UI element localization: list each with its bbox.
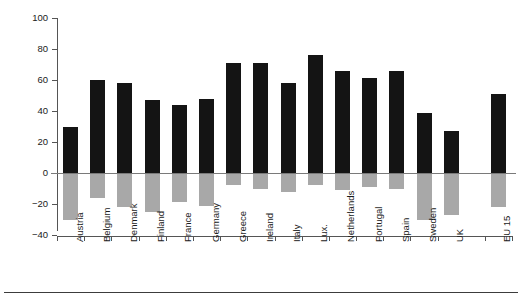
x-tick-label: UK	[455, 229, 465, 242]
y-tick-label: 40	[20, 106, 48, 116]
x-tick-label: Austria	[75, 212, 85, 242]
x-tick-label: Spain	[401, 218, 411, 242]
x-tick-mark	[57, 236, 58, 241]
x-tick-mark	[512, 236, 513, 241]
x-tick-label: Lux.	[319, 224, 329, 242]
bar-negative	[281, 173, 296, 192]
bar-positive	[253, 63, 268, 173]
bar-positive	[308, 55, 323, 173]
y-tick-label: −20	[20, 199, 48, 209]
x-tick-label: Italy	[292, 225, 302, 242]
y-tick-label: −40	[20, 230, 48, 240]
x-tick-label: Netherlands	[346, 191, 356, 242]
x-tick-label: Greece	[238, 211, 248, 242]
x-tick-label: Sweden	[428, 208, 438, 242]
footer-rule	[4, 292, 518, 293]
x-tick-mark	[193, 236, 194, 241]
bar-positive	[444, 131, 459, 173]
x-tick-mark	[410, 236, 411, 241]
bar-negative	[145, 173, 160, 212]
x-tick-label: EU 15	[502, 216, 512, 242]
x-tick-label: Belgium	[102, 208, 112, 242]
x-tick-mark	[302, 236, 303, 241]
plot-area	[57, 0, 512, 236]
y-tick-label: 100	[20, 13, 48, 23]
bar-positive	[389, 71, 404, 173]
x-tick-mark	[356, 236, 357, 241]
zero-baseline	[51, 173, 516, 174]
x-tick-mark	[220, 236, 221, 241]
x-tick-mark	[275, 236, 276, 241]
bar-negative	[335, 173, 350, 190]
bar-negative	[444, 173, 459, 215]
x-tick-mark	[247, 236, 248, 241]
bar-positive	[491, 94, 506, 173]
x-tick-label: France	[183, 212, 193, 242]
x-tick-mark	[383, 236, 384, 241]
x-tick-mark	[485, 236, 486, 241]
bar-positive	[362, 78, 377, 173]
bar-negative	[199, 173, 214, 206]
x-tick-label: Portugal	[374, 207, 384, 242]
bar-negative	[253, 173, 268, 189]
bar-positive	[199, 99, 214, 173]
bar-negative	[389, 173, 404, 189]
x-tick-label: Ireland	[265, 213, 275, 242]
bar-positive	[226, 63, 241, 173]
bar-positive	[417, 113, 432, 173]
x-axis-line	[57, 236, 512, 237]
bar-positive	[63, 127, 78, 174]
x-tick-mark	[111, 236, 112, 241]
bar-positive	[335, 71, 350, 173]
y-tick-label: 0	[20, 168, 48, 178]
x-tick-label: Finland	[156, 211, 166, 242]
bar-positive	[90, 80, 105, 173]
bar-negative	[308, 173, 323, 185]
y-tick-label: 80	[20, 44, 48, 54]
bar-chart-figure: Bad thing . . . . Good thing 10080604020…	[0, 0, 522, 299]
y-tick-label: 20	[20, 137, 48, 147]
bar-negative	[362, 173, 377, 187]
x-tick-mark	[438, 236, 439, 241]
bar-positive	[117, 83, 132, 173]
bar-negative	[172, 173, 187, 202]
x-tick-mark	[139, 236, 140, 241]
bar-negative	[491, 173, 506, 207]
x-tick-mark	[166, 236, 167, 241]
x-tick-label: Denmark	[129, 203, 139, 242]
x-tick-label: Germany	[211, 203, 221, 242]
bar-negative	[117, 173, 132, 207]
bar-negative	[90, 173, 105, 198]
y-tick-label: 60	[20, 75, 48, 85]
bar-positive	[281, 83, 296, 173]
bar-positive	[172, 105, 187, 173]
bar-positive	[145, 100, 160, 173]
x-tick-mark	[84, 236, 85, 241]
x-tick-mark	[329, 236, 330, 241]
bar-negative	[226, 173, 241, 185]
